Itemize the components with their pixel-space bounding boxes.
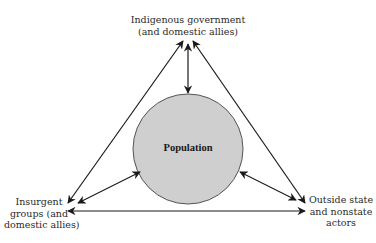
node-top-line-2: (and domestic allies) [128, 26, 248, 38]
node-indigenous-government: Indigenous government (and domestic alli… [128, 14, 248, 37]
edge-right-center [240, 172, 296, 200]
node-top-line-1: Indigenous government [128, 14, 248, 26]
node-insurgent-groups: Insurgent groups (and domestic allies) [4, 196, 74, 231]
node-right-line-2: and nonstate [308, 206, 374, 218]
population-label: Population [133, 142, 243, 153]
node-left-line-2: groups (and [4, 208, 74, 220]
node-left-line-1: Insurgent [4, 196, 74, 208]
node-left-line-3: domestic allies) [4, 219, 74, 231]
node-right-line-1: Outside state [308, 194, 374, 206]
node-outside-actors: Outside state and nonstate actors [308, 194, 374, 229]
node-right-line-3: actors [308, 217, 374, 229]
